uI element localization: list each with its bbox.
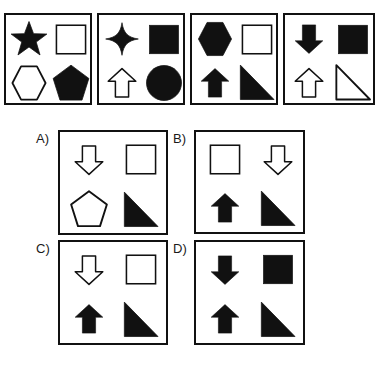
triangle-black-icon bbox=[115, 185, 167, 234]
triangle-black-icon bbox=[236, 61, 277, 104]
option-b-label: B) bbox=[173, 132, 186, 145]
rectangle-black-icon bbox=[143, 18, 184, 61]
star5-black-icon bbox=[9, 18, 50, 61]
rectangle-white-icon bbox=[115, 245, 167, 294]
rectangle-white-icon bbox=[199, 135, 251, 184]
hexagon-black-icon bbox=[195, 18, 236, 61]
pentagon-white-icon bbox=[63, 185, 115, 234]
arrow-up-black-icon bbox=[195, 61, 236, 104]
arrow-down-white-icon bbox=[63, 245, 115, 294]
arrow-down-white-icon bbox=[63, 135, 115, 184]
rectangle-white-icon bbox=[115, 135, 167, 184]
arrow-up-white-icon bbox=[288, 61, 331, 104]
rectangle-white-icon bbox=[50, 18, 91, 61]
sequence-panel-2 bbox=[97, 13, 185, 105]
option-d-label: D) bbox=[173, 242, 187, 255]
rectangle-black-icon bbox=[252, 245, 304, 294]
puzzle-stage: A)B)C)D) bbox=[0, 0, 384, 365]
rectangle-white-icon bbox=[236, 18, 277, 61]
hexagon-white-icon bbox=[9, 61, 50, 104]
triangle-black-icon bbox=[115, 295, 167, 344]
arrow-up-black-icon bbox=[63, 295, 115, 344]
arrow-down-black-icon bbox=[199, 245, 251, 294]
sequence-panel-1 bbox=[4, 13, 92, 105]
pentagon-black-icon bbox=[50, 61, 91, 104]
arrow-up-black-icon bbox=[199, 184, 251, 233]
option-b[interactable] bbox=[194, 130, 305, 234]
arrow-down-black-icon bbox=[288, 18, 331, 61]
star4-black-icon bbox=[102, 18, 143, 61]
option-c[interactable] bbox=[58, 240, 168, 345]
option-a-label: A) bbox=[36, 132, 49, 145]
option-a[interactable] bbox=[58, 130, 168, 235]
sequence-panel-4 bbox=[283, 13, 375, 105]
option-d[interactable] bbox=[194, 240, 305, 345]
option-c-label: C) bbox=[36, 242, 50, 255]
triangle-black-icon bbox=[252, 184, 304, 233]
arrow-up-white-icon bbox=[102, 61, 143, 104]
arrow-up-black-icon bbox=[199, 295, 251, 344]
triangle-black-icon bbox=[252, 295, 304, 344]
arrow-down-white-icon bbox=[252, 135, 304, 184]
circle-black-icon bbox=[143, 61, 184, 104]
sequence-panel-3 bbox=[190, 13, 278, 105]
rectangle-black-icon bbox=[331, 18, 374, 61]
triangle-white-icon bbox=[331, 61, 374, 104]
